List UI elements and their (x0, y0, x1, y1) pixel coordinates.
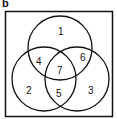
region-4: 4 (36, 56, 42, 67)
region-5: 5 (56, 88, 62, 99)
region-7: 7 (57, 65, 63, 76)
region-1: 1 (58, 26, 64, 37)
region-6: 6 (80, 52, 86, 63)
region-3: 3 (88, 85, 94, 96)
region-2: 2 (26, 85, 32, 96)
venn-diagram: 1 2 3 4 5 6 7 (0, 0, 117, 119)
